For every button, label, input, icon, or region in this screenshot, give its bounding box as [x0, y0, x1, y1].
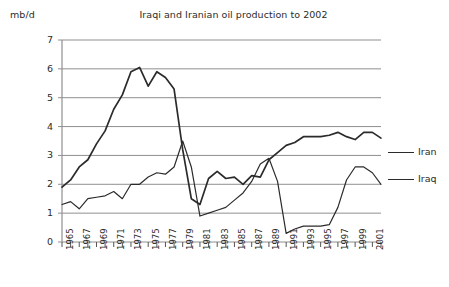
- y-tick-label: 1: [33, 208, 53, 218]
- x-tick-label: 1979: [186, 228, 195, 250]
- x-tick-label: 1989: [272, 228, 281, 250]
- x-tick-label: 1967: [83, 228, 92, 250]
- x-tick-label: 1983: [221, 228, 230, 250]
- chart-legend: Iran Iraq: [388, 146, 449, 200]
- x-tick-label: 1977: [169, 228, 178, 250]
- x-tick-label: 1987: [255, 228, 264, 250]
- x-tick-label: 1971: [117, 228, 126, 250]
- chart-figure: mb/d Iraqi and Iranian oil production to…: [0, 0, 449, 287]
- y-tick-label: 5: [33, 93, 53, 103]
- y-tick-label: 2: [33, 179, 53, 189]
- x-tick-label: 1969: [100, 228, 109, 250]
- x-tick-label: 1999: [359, 228, 368, 250]
- x-tick-label: 1985: [238, 228, 247, 250]
- y-tick-label: 4: [33, 122, 53, 132]
- legend-label-iraq: Iraq: [418, 174, 437, 184]
- legend-line-iraq: [388, 179, 414, 180]
- x-tick-label: 1995: [324, 228, 333, 250]
- y-tick-label: 6: [33, 64, 53, 74]
- x-tick-label: 1991: [290, 228, 299, 250]
- x-tick-label: 1993: [307, 228, 316, 250]
- x-tick-label: 1981: [203, 228, 212, 250]
- legend-line-iran: [388, 152, 414, 153]
- legend-item-iraq: Iraq: [388, 173, 449, 185]
- x-tick-label: 1975: [152, 228, 161, 250]
- x-tick-label: 2001: [376, 228, 385, 250]
- x-tick-label: 1997: [341, 228, 350, 250]
- series-line-iraq: [62, 141, 381, 233]
- x-tick-label: 1965: [66, 228, 75, 250]
- x-tick-label: 1973: [134, 228, 143, 250]
- y-tick-label: 0: [33, 237, 53, 247]
- y-tick-label: 3: [33, 150, 53, 160]
- legend-label-iran: Iran: [418, 147, 437, 157]
- y-tick-label: 7: [33, 35, 53, 45]
- legend-item-iran: Iran: [388, 146, 449, 158]
